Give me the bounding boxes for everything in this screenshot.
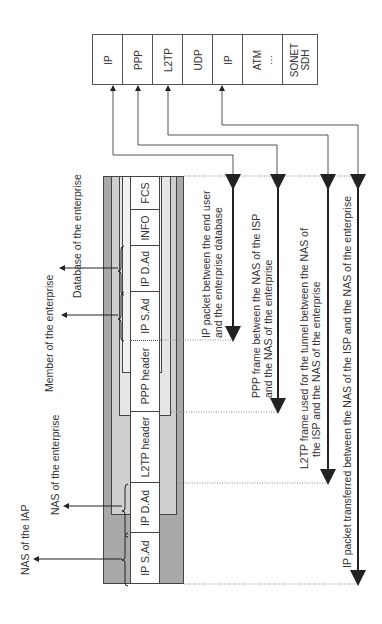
label-line: the ISP and the NAS of the enterprise [310, 228, 322, 469]
label-line: IP packet between the end user [200, 191, 212, 339]
label-nas-enterprise: NAS of the enterprise [49, 415, 61, 515]
label-line: and the enterprise database [212, 191, 224, 339]
label-nas-iap: NAS of the IAP [19, 504, 31, 575]
label-member-enterprise: Member of the enterprise [43, 275, 55, 392]
label-ppp-frame: PPP frame between the NAS of the ISP and… [250, 214, 274, 398]
label-line: L2TP frame used for the tunnel between t… [298, 228, 310, 469]
label-line: and the NAS of the enterprise [262, 214, 274, 398]
label-line: PPP frame between the NAS of the ISP [250, 214, 262, 398]
label-line: IP packet transferred between the NAS of… [341, 196, 353, 568]
label-outer-ip-packet: IP packet transferred between the NAS of… [341, 196, 353, 568]
label-ip-packet: IP packet between the end user and the e… [200, 191, 224, 339]
label-database-enterprise: Database of the enterprise [71, 174, 83, 298]
connector-lines [0, 0, 382, 624]
label-l2tp-frame: L2TP frame used for the tunnel between t… [298, 228, 322, 469]
